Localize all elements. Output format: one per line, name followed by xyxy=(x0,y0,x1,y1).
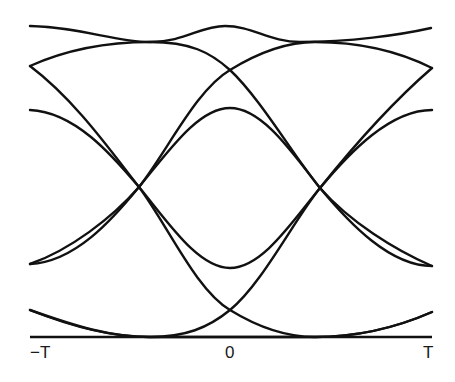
trace-top-bump xyxy=(30,26,431,42)
trace-high-falling xyxy=(30,66,432,337)
trace-mid-high-falling xyxy=(30,110,432,268)
trace-bottom-dip xyxy=(30,310,432,337)
tick-label-t: T xyxy=(423,343,433,363)
tick-label-zero: 0 xyxy=(225,343,234,363)
trace-mid-low-rising xyxy=(30,108,432,266)
eye-diagram xyxy=(0,0,455,382)
trace-low-rising xyxy=(30,42,432,264)
tick-label-minus-t: −T xyxy=(30,343,50,363)
trace-group xyxy=(30,26,432,337)
